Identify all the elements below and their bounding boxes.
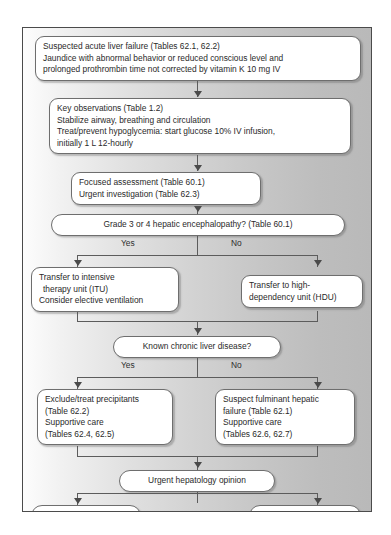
node-assessment: Focused assessment (Table 60.1) Urgent i…: [71, 172, 261, 205]
arrow-presentation-to-observations: [194, 91, 202, 97]
branch-label-encephalopathy-yes: Yes: [121, 238, 135, 248]
node-fulminant-care-line-1: Suspect fulminant hepatic: [223, 394, 347, 406]
connector-fulminant-care-down: [317, 446, 318, 457]
arrow-encephalopathy-yes: [74, 260, 82, 266]
flowchart-panel: Suspected acute liver failure (Tables 62…: [22, 27, 372, 512]
node-presentation-line-3: prolonged prothrombin time not corrected…: [43, 64, 353, 76]
node-itu-line-3: Consider elective ventilation: [39, 295, 171, 307]
node-hepatology-opinion-text: Urgent hepatology opinion: [130, 475, 264, 487]
node-decision-chronic-text: Known chronic liver disease?: [124, 341, 270, 353]
node-key-observations-line-3: Treat/prevent hypoglycemia: start glucos…: [57, 126, 343, 138]
connector-hepatology-split: [77, 493, 317, 494]
node-decision-encephalopathy-text: Grade 3 or 4 hepatic encephalopathy? (Ta…: [62, 219, 334, 231]
node-chronic-care-line-1: Exclude/treat precipitants: [45, 394, 165, 406]
node-presentation: Suspected acute liver failure (Tables 62…: [35, 36, 361, 81]
node-decision-chronic: Known chronic liver disease?: [113, 336, 281, 358]
node-itu-line-2: therapy unit (ITU): [39, 284, 171, 296]
node-key-observations-line-2: Stabilize airway, breathing and circulat…: [57, 115, 343, 127]
node-decision-encephalopathy: Grade 3 or 4 hepatic encephalopathy? (Ta…: [51, 214, 345, 236]
connector-chronic-split: [77, 377, 317, 378]
node-continue-care-locally: Continue care locally: [249, 505, 361, 512]
node-transfer-liver-unit-text: Transfer to liver unit: [42, 510, 130, 512]
connector-hdu-down: [317, 311, 318, 322]
flowchart-figure: Suspected acute liver failure (Tables 62…: [0, 0, 391, 535]
node-fulminant-care-line-4: (Tables 62.6, 62.7): [223, 429, 347, 441]
arrow-assessment-to-encephalopathy: [194, 206, 202, 212]
node-presentation-line-2: Jaundice with abnormal behavior or reduc…: [43, 53, 353, 65]
node-transfer-liver-unit: Transfer to liver unit: [31, 505, 141, 512]
arrow-merge-to-chronic: [194, 328, 202, 334]
node-chronic-care-line-2: (Table 62.2): [45, 406, 165, 418]
node-key-observations-line-4: initially 1 L 12-hourly: [57, 138, 343, 150]
node-key-observations-line-1: Key observations (Table 1.2): [57, 103, 343, 115]
branch-label-chronic-yes: Yes: [121, 360, 135, 370]
arrow-chronic-yes: [74, 382, 82, 388]
node-hepatology-opinion: Urgent hepatology opinion: [119, 470, 275, 492]
node-chronic-care: Exclude/treat precipitants (Table 62.2) …: [37, 389, 173, 445]
node-fulminant-care: Suspect fulminant hepatic failure (Table…: [215, 389, 355, 445]
connector-encephalopathy-stem: [197, 234, 198, 256]
node-itu-line-1: Transfer to intensive: [39, 272, 171, 284]
arrow-to-liver-unit: [74, 498, 82, 504]
arrow-merge-to-hepatology: [194, 462, 202, 468]
connector-hepatology-stem: [197, 490, 198, 503]
node-fulminant-care-line-3: Supportive care: [223, 417, 347, 429]
arrow-encephalopathy-no: [314, 260, 322, 266]
node-chronic-care-line-4: (Tables 62.4, 62.5): [45, 429, 165, 441]
node-fulminant-care-line-2: failure (Table 62.1): [223, 406, 347, 418]
connector-chronic-stem: [197, 356, 198, 378]
arrow-to-continue-local: [314, 498, 322, 504]
arrow-observations-to-assessment: [194, 165, 202, 171]
node-itu: Transfer to intensive therapy unit (ITU)…: [31, 267, 179, 312]
branch-label-encephalopathy-no: No: [231, 238, 242, 248]
node-chronic-care-line-3: Supportive care: [45, 417, 165, 429]
node-hdu-line-2: dependency unit (HDU): [249, 292, 355, 304]
branch-label-chronic-no: No: [231, 360, 242, 370]
node-assessment-line-1: Focused assessment (Table 60.1): [79, 177, 253, 189]
arrow-chronic-no: [314, 382, 322, 388]
node-assessment-line-2: Urgent investigation (Table 62.3): [79, 189, 253, 201]
node-presentation-line-1: Suspected acute liver failure (Tables 62…: [43, 41, 353, 53]
node-hdu: Transfer to high- dependency unit (HDU): [241, 275, 363, 308]
node-key-observations: Key observations (Table 1.2) Stabilize a…: [49, 98, 351, 154]
node-hdu-line-1: Transfer to high-: [249, 280, 355, 292]
connector-encephalopathy-split: [77, 255, 317, 256]
node-continue-care-locally-text: Continue care locally: [260, 510, 350, 512]
